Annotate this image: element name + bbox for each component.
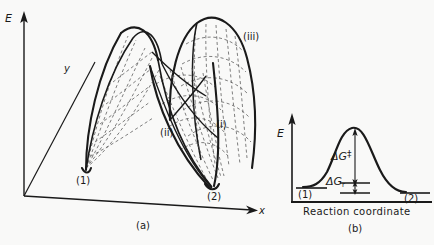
panel-a: [20, 11, 258, 214]
panel-b-x-axis-label: Reaction coordinate: [303, 207, 411, 217]
panel-a-caption: (a): [136, 221, 150, 231]
panel-a-state-1-label: (1): [76, 176, 90, 186]
panel-a-x-axis-label: x: [259, 206, 265, 216]
reaction-energy-label: ΔGr: [326, 176, 345, 189]
surface-label-iii: (iii): [243, 32, 259, 42]
activation-energy-arrow: [352, 128, 357, 187]
panel-b-energy-axis: [288, 113, 295, 202]
activation-energy-label: ΔG‡: [331, 150, 352, 162]
reaction-energy-symbol: ΔG: [326, 175, 342, 188]
surface-label-ii: (ii): [160, 128, 173, 138]
panel-b-caption: (b): [348, 224, 362, 234]
surface-crossing-seam: [152, 52, 206, 120]
panel-b-state-1-label: (1): [298, 190, 312, 200]
panel-b-energy-axis-label: E: [277, 128, 284, 139]
surface-ii: [82, 27, 218, 187]
panel-b-state-2-label: (2): [404, 194, 418, 204]
panel-a-energy-axis: [20, 11, 28, 196]
activation-energy-superscript: ‡: [347, 149, 352, 159]
activation-energy-symbol: ΔG: [331, 150, 347, 163]
reaction-energy-subscript: r: [342, 181, 345, 189]
panel-a-state-2-label: (2): [207, 192, 221, 202]
surface-label-i: (i): [216, 120, 227, 130]
panel-a-x-axis: [24, 196, 258, 214]
panel-a-energy-axis-label: E: [5, 13, 12, 24]
panel-a-y-axis-label: y: [64, 64, 70, 74]
